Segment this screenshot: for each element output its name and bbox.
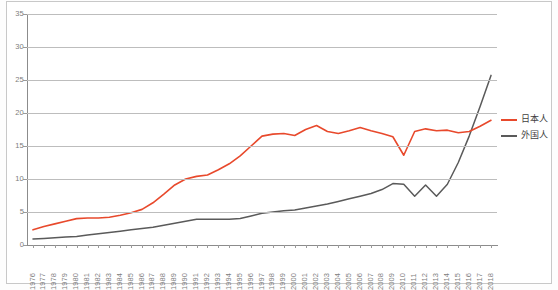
x-tick-label: 1990 bbox=[181, 273, 189, 290]
x-axis-labels: 1976197719781979198019811982198319841985… bbox=[27, 246, 499, 290]
x-tick-label: 1983 bbox=[105, 273, 113, 290]
x-tick-label: 1979 bbox=[61, 273, 69, 290]
x-tick-label: 2007 bbox=[367, 273, 375, 290]
x-tick-label: 1992 bbox=[203, 273, 211, 290]
gridline bbox=[27, 113, 497, 114]
y-tick-mark bbox=[23, 146, 27, 147]
gridline bbox=[27, 14, 497, 15]
x-tick-label: 1994 bbox=[225, 273, 233, 290]
plot-area bbox=[27, 14, 497, 245]
gridline bbox=[27, 80, 497, 81]
x-tick-label: 1984 bbox=[116, 273, 124, 290]
chart-screenshot: 05101520253035 1976197719781979198019811… bbox=[0, 0, 558, 290]
y-tick-label: 35 bbox=[2, 10, 24, 18]
x-tick-label: 2004 bbox=[334, 273, 342, 290]
x-tick-label: 1978 bbox=[50, 273, 58, 290]
x-tick-label: 1989 bbox=[170, 273, 178, 290]
x-tick-label: 2010 bbox=[399, 273, 407, 290]
series-lines bbox=[27, 14, 497, 245]
y-tick-label: 25 bbox=[2, 76, 24, 84]
y-tick-mark bbox=[23, 179, 27, 180]
gridline bbox=[27, 212, 497, 213]
x-tick-label: 2000 bbox=[290, 273, 298, 290]
y-tick-mark bbox=[23, 47, 27, 48]
legend-swatch-foreign bbox=[501, 135, 517, 137]
x-tick-label: 1981 bbox=[83, 273, 91, 290]
y-tick-label: 20 bbox=[2, 109, 24, 117]
x-tick-label: 1988 bbox=[159, 273, 167, 290]
y-tick-label: 30 bbox=[2, 43, 24, 51]
line-series-foreign bbox=[33, 75, 491, 239]
x-tick-label: 2003 bbox=[323, 273, 331, 290]
x-tick-label: 2002 bbox=[312, 273, 320, 290]
x-tick-label: 2009 bbox=[388, 273, 396, 290]
x-tick-label: 2005 bbox=[345, 273, 353, 290]
x-tick-label: 2013 bbox=[432, 273, 440, 290]
y-tick-label: 5 bbox=[2, 208, 24, 216]
y-tick-mark bbox=[23, 212, 27, 213]
x-tick-label: 1998 bbox=[268, 273, 276, 290]
x-tick-label: 1996 bbox=[247, 273, 255, 290]
x-tick-label: 2015 bbox=[454, 273, 462, 290]
x-tick-label: 2017 bbox=[476, 273, 484, 290]
y-tick-label: 0 bbox=[2, 241, 24, 249]
x-tick-label: 2016 bbox=[465, 273, 473, 290]
x-tick-label: 2006 bbox=[356, 273, 364, 290]
y-tick-label: 10 bbox=[2, 175, 24, 183]
legend-item-japanese: 日本人 bbox=[501, 113, 553, 127]
x-tick-label: 1985 bbox=[127, 273, 135, 290]
x-tick-label: 1976 bbox=[29, 273, 37, 290]
legend-swatch-japanese bbox=[501, 119, 517, 121]
x-tick-label: 1987 bbox=[148, 273, 156, 290]
x-tick-label: 1993 bbox=[214, 273, 222, 290]
x-tick-label: 1991 bbox=[192, 273, 200, 290]
x-tick-label: 1986 bbox=[138, 273, 146, 290]
x-tick-label: 1980 bbox=[72, 273, 80, 290]
legend-label-japanese: 日本人 bbox=[521, 114, 548, 125]
y-tick-mark bbox=[23, 113, 27, 114]
x-tick-label: 2012 bbox=[421, 273, 429, 290]
legend-item-foreign: 外国人 bbox=[501, 129, 553, 143]
x-tick-label: 2014 bbox=[443, 273, 451, 290]
x-tick-label: 2008 bbox=[377, 273, 385, 290]
y-tick-mark bbox=[23, 80, 27, 81]
legend-label-foreign: 外国人 bbox=[521, 130, 548, 141]
y-tick-label: 15 bbox=[2, 142, 24, 150]
x-tick-label: 1982 bbox=[94, 273, 102, 290]
chart-legend: 日本人 外国人 bbox=[501, 113, 551, 149]
x-tick-label: 2001 bbox=[301, 273, 309, 290]
x-tick-label: 1997 bbox=[258, 273, 266, 290]
y-tick-mark bbox=[23, 14, 27, 15]
x-tick-label: 2018 bbox=[487, 273, 495, 290]
gridline bbox=[27, 146, 497, 147]
gridline bbox=[27, 179, 497, 180]
x-tick-label: 1995 bbox=[236, 273, 244, 290]
y-axis-labels: 05101520253035 bbox=[0, 0, 24, 290]
gridline bbox=[27, 47, 497, 48]
x-tick-label: 1977 bbox=[39, 273, 47, 290]
x-tick-label: 2011 bbox=[410, 273, 418, 290]
x-tick-label: 1999 bbox=[279, 273, 287, 290]
